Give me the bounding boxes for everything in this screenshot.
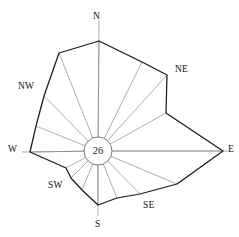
wind-rose-figure: 26 N NE E SE S SW W NW	[0, 0, 239, 237]
direction-label-se: SE	[143, 200, 155, 210]
spoke-ese	[111, 156, 177, 184]
spoke-sw	[71, 161, 88, 178]
spoke-wnw	[36, 126, 85, 146]
direction-label-sw: SW	[48, 180, 63, 190]
spoke-ssw	[82, 164, 93, 190]
direction-label-ne: NE	[175, 64, 188, 74]
direction-label-e: E	[228, 144, 234, 154]
direction-label-s: S	[95, 219, 100, 229]
center-hub-value: 26	[93, 145, 104, 156]
spoke-nne	[104, 62, 142, 138]
direction-label-w: W	[8, 144, 17, 154]
spoke-n	[98, 41, 99, 137]
spoke-nw	[44, 96, 88, 141]
direction-label-nw: NW	[18, 81, 34, 91]
spoke-sse	[103, 164, 117, 198]
spoke-ne	[107, 75, 167, 141]
spoke-se	[108, 161, 140, 194]
spoke-w	[30, 151, 84, 152]
wind-rose-plot: 26	[0, 0, 239, 237]
spoke-nnw	[59, 53, 93, 138]
direction-label-n: N	[93, 11, 100, 21]
